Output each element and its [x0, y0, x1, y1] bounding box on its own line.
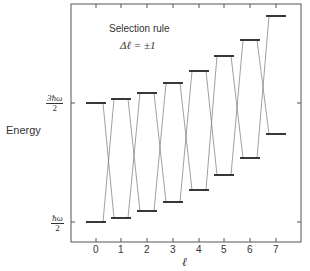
annotation-title: Selection rule	[109, 23, 170, 34]
x-tick-label: 4	[196, 244, 202, 255]
transition-line	[128, 93, 140, 218]
annotation-rule: Δℓ = ±1	[120, 39, 156, 51]
x-tick-label: 5	[221, 244, 227, 255]
axis-ticks	[71, 4, 301, 242]
y-tick-label-upper: 3ħω 2	[46, 94, 63, 113]
y-axis-label: Energy	[6, 124, 41, 136]
transition-line	[231, 40, 243, 175]
y-tick-label-lower: ħω 2	[51, 214, 64, 233]
plot-frame	[71, 4, 301, 242]
x-tick-label: 6	[247, 244, 253, 255]
transition-line	[257, 16, 269, 158]
transition-line	[154, 83, 166, 211]
x-tick-label: 2	[144, 244, 150, 255]
y-tick-lower-denominator: 2	[51, 224, 64, 233]
x-tick-label: 0	[93, 244, 99, 255]
x-tick-label: 1	[118, 244, 124, 255]
x-tick-label: 7	[273, 244, 279, 255]
transition-line	[206, 56, 217, 190]
energy-levels	[86, 16, 286, 222]
x-tick-label: 3	[170, 244, 176, 255]
transition-line	[180, 71, 192, 202]
y-tick-upper-denominator: 2	[46, 104, 63, 113]
x-axis-label: ℓ	[182, 255, 187, 270]
